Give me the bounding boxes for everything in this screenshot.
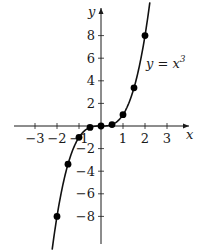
y-tick-label: 8: [87, 28, 95, 43]
data-point: [87, 124, 94, 131]
y-tick-label: 4: [87, 73, 95, 88]
data-point: [54, 213, 61, 220]
data-point: [131, 84, 138, 91]
y-tick-label: −4: [76, 164, 95, 179]
x-tick-label: −2: [47, 131, 66, 146]
data-point: [65, 161, 72, 168]
cubic-function-chart: −3−2−1123−8−6−4−22468 x y y = x3: [0, 0, 199, 252]
x-tick-label: 2: [141, 131, 149, 146]
data-point: [76, 134, 83, 141]
data-point: [98, 123, 105, 130]
data-point: [109, 121, 116, 128]
x-tick-label: 3: [163, 131, 171, 146]
x-tick-label: −3: [25, 131, 44, 146]
y-tick-label: −6: [76, 186, 95, 201]
data-point: [120, 111, 127, 118]
curve-label-base: y = x: [145, 56, 181, 71]
curve-label-exponent: 3: [180, 54, 186, 64]
y-tick-label: 2: [87, 96, 95, 111]
x-tick-label: 1: [119, 131, 127, 146]
y-tick-label: −8: [76, 209, 95, 224]
data-point: [142, 32, 149, 39]
x-axis-label: x: [186, 127, 194, 142]
y-tick-label: 6: [87, 51, 95, 66]
curve-label: y = x3: [145, 54, 186, 71]
y-axis-arrow-icon: [99, 8, 104, 14]
y-tick-label: −2: [76, 141, 95, 156]
y-axis-label: y: [87, 4, 96, 19]
